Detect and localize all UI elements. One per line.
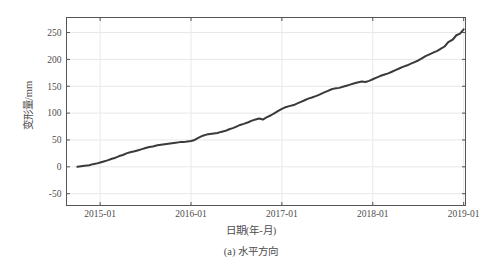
svg-text:-50: -50: [49, 189, 62, 199]
plot-frame: [67, 18, 466, 206]
svg-text:200: 200: [47, 55, 62, 65]
svg-text:2018-01: 2018-01: [357, 209, 389, 219]
svg-text:100: 100: [47, 108, 62, 118]
data-series: [77, 29, 463, 167]
svg-text:2017-01: 2017-01: [266, 209, 298, 219]
svg-text:0: 0: [57, 162, 62, 172]
axis-ticks: [67, 18, 466, 206]
svg-text:2015-01: 2015-01: [84, 209, 116, 219]
svg-text:150: 150: [47, 82, 62, 92]
figure-panel: 2015-012016-012017-012018-012019-01-5005…: [0, 0, 502, 266]
figure-caption: (a) 水平方向: [0, 243, 502, 258]
gridlines: [67, 18, 466, 206]
x-axis-title: 日期(年-月): [0, 222, 502, 237]
svg-text:250: 250: [47, 28, 62, 38]
svg-text:2016-01: 2016-01: [175, 209, 207, 219]
svg-text:50: 50: [52, 135, 62, 145]
svg-text:2019-01: 2019-01: [448, 209, 480, 219]
axis-tick-labels: 2015-012016-012017-012018-012019-01-5005…: [47, 28, 480, 219]
